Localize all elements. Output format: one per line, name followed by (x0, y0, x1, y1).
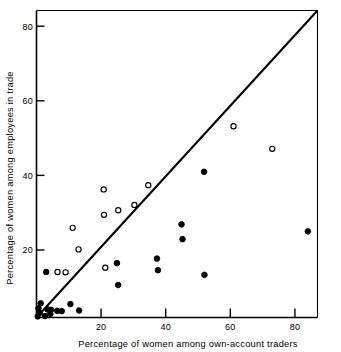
x-tick-label-1: 40 (160, 322, 170, 332)
data-point-filled (179, 222, 185, 228)
data-point-filled (59, 308, 65, 314)
scatter-plot-figure: 20 40 60 80 20 40 60 80 Percentage of wo… (0, 0, 341, 352)
data-point-filled (115, 282, 121, 288)
data-point-open (270, 146, 275, 151)
data-point-filled (154, 256, 160, 262)
data-point-filled (37, 310, 43, 316)
y-tick-labels: 20 40 60 80 (23, 22, 33, 256)
data-point-filled (114, 260, 120, 266)
data-point-open (132, 202, 137, 207)
data-point-open (116, 208, 121, 213)
data-point-filled (305, 229, 311, 235)
data-marker-layer (35, 124, 311, 320)
series-open-circles (55, 124, 275, 275)
data-point-open (103, 265, 108, 270)
data-point-filled (76, 308, 82, 314)
data-point-open (55, 269, 60, 274)
data-point-open (146, 183, 151, 188)
annotation-layer (37, 11, 318, 318)
data-point-filled (201, 169, 207, 175)
x-tick-labels: 20 40 60 80 (96, 322, 300, 332)
y-tick-label-0: 20 (23, 245, 33, 255)
data-point-filled (180, 236, 186, 242)
x-tick-label-3: 80 (290, 322, 300, 332)
data-point-filled (68, 301, 74, 307)
data-point-open (76, 247, 81, 252)
data-point-open (101, 187, 106, 192)
data-point-filled (48, 307, 54, 313)
y-tick-label-1: 40 (23, 171, 33, 181)
diagonal-reference-line (37, 11, 318, 318)
data-point-filled (42, 313, 48, 319)
x-tick-label-2: 60 (225, 322, 235, 332)
data-point-filled (202, 272, 208, 278)
y-tick-label-2: 60 (23, 96, 33, 106)
y-axis-title: Percentage of women among employees in t… (5, 71, 15, 285)
data-point-open (101, 212, 106, 217)
x-tick-label-0: 20 (96, 322, 106, 332)
y-axis-ticks (37, 26, 45, 250)
data-point-filled (155, 267, 161, 273)
data-point-filled (43, 269, 49, 275)
series-filled-circles (35, 169, 311, 319)
data-point-open (63, 270, 68, 275)
data-point-open (70, 225, 75, 230)
x-axis-ticks (101, 309, 295, 318)
plot-canvas: 20 40 60 80 20 40 60 80 Percentage of wo… (0, 0, 341, 352)
y-tick-label-3: 80 (23, 22, 33, 32)
data-point-open (231, 124, 236, 129)
data-point-filled (38, 301, 44, 307)
x-axis-title: Percentage of women among own-account tr… (78, 339, 298, 349)
